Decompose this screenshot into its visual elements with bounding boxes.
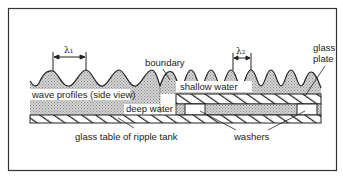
glass-table-label: glass table of ripple tank	[75, 131, 178, 142]
ripple-tank-diagram: λ₁ λ₂ boundary glass plate wave profiles…	[0, 0, 343, 177]
glass-plate	[176, 94, 321, 104]
lambda2-label: λ₂	[236, 46, 246, 56]
glass-table	[30, 115, 321, 123]
shallow-water-label: shallow water	[180, 81, 238, 92]
lambda1-label: λ₁	[64, 45, 73, 55]
boundary-label: boundary	[145, 57, 185, 68]
washer-left	[185, 104, 205, 115]
deep-water-label: deep water	[126, 103, 173, 114]
wave-profiles-label: wave profiles (side view)	[31, 89, 135, 100]
washers-label: washers	[233, 131, 270, 142]
glass-plate-label-line2: plate	[313, 53, 334, 64]
glass-plate-label-line1: glass	[313, 42, 335, 53]
